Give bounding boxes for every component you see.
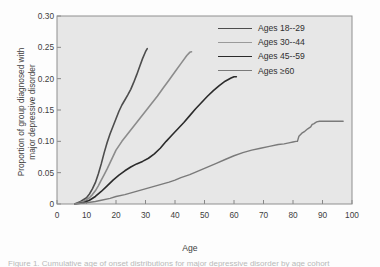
- legend-line-swatch: [218, 28, 252, 29]
- figure-caption: Figure 1. Cumulative age of onset distri…: [8, 259, 372, 267]
- x-tick-label: 100: [339, 210, 365, 220]
- legend-item: Ages 30--44: [218, 35, 350, 49]
- x-axis-label: Age: [0, 243, 380, 253]
- legend-item: Ages 45--59: [218, 49, 350, 63]
- legend-line-swatch: [218, 70, 252, 71]
- legend-label: Ages 30--44: [258, 37, 305, 47]
- legend-label: Ages 45--59: [258, 51, 305, 61]
- legend-label: Ages ≥60: [258, 66, 294, 76]
- x-tick-label: 40: [162, 210, 188, 220]
- legend-line-swatch: [218, 56, 252, 57]
- chart-legend: Ages 18--29Ages 30--44Ages 45--59Ages ≥6…: [218, 21, 350, 78]
- x-tick-label: 30: [133, 210, 159, 220]
- x-tick-label: 10: [74, 210, 100, 220]
- figure-container: Proportion of group diagnosed with major…: [0, 0, 380, 267]
- x-tick-label: 80: [280, 210, 306, 220]
- legend-item: Ages ≥60: [218, 64, 350, 78]
- x-tick-label: 90: [310, 210, 336, 220]
- legend-line-swatch: [218, 42, 252, 43]
- x-tick-label: 60: [221, 210, 247, 220]
- x-tick-label: 20: [103, 210, 129, 220]
- legend-item: Ages 18--29: [218, 21, 350, 35]
- x-tick-label: 50: [192, 210, 218, 220]
- x-tick-label: 70: [251, 210, 277, 220]
- x-tick-label: 0: [44, 210, 70, 220]
- legend-label: Ages 18--29: [258, 23, 305, 33]
